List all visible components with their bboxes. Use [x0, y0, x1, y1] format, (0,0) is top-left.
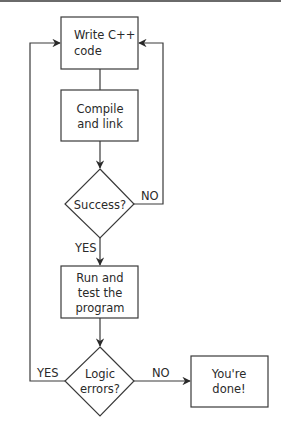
- node-compile-line2: and link: [77, 117, 123, 131]
- node-write-code-line2: code: [74, 44, 102, 58]
- edge-logic-yes-write: [30, 43, 65, 381]
- edge-label-success-yes: YES: [74, 241, 97, 255]
- node-logic-line1: Logic: [85, 367, 115, 381]
- flowchart: Write C++ code Compile and link Success?…: [0, 0, 281, 441]
- node-write-code-line1: Write C++: [74, 28, 135, 42]
- edge-label-logic-no: NO: [152, 366, 170, 380]
- edge-label-logic-yes: YES: [36, 366, 59, 380]
- node-done-line2: done!: [212, 382, 245, 396]
- node-run-line2: test the: [78, 286, 123, 300]
- node-compile-line1: Compile: [76, 102, 123, 116]
- node-run-line3: program: [75, 301, 124, 315]
- node-success-label: Success?: [74, 198, 126, 212]
- node-write-code: [61, 17, 138, 69]
- node-logic-line2: errors?: [80, 382, 120, 396]
- node-run-line1: Run and: [76, 271, 123, 285]
- node-done-line1: You're: [211, 367, 247, 381]
- edge-label-success-no: NO: [141, 189, 159, 203]
